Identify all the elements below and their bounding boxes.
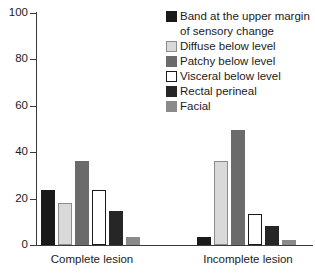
bar	[197, 237, 211, 245]
legend-swatch-icon	[166, 86, 177, 97]
legend-swatch-icon	[166, 101, 177, 112]
bar	[126, 237, 140, 245]
legend-label: Patchy below level	[180, 54, 275, 69]
legend-label: Visceral below level	[180, 69, 281, 84]
legend-item: Rectal perineal	[166, 84, 315, 99]
y-tick-0	[30, 245, 36, 246]
bar-group-0	[41, 13, 143, 245]
bar	[58, 203, 72, 245]
legend-item: Band at the upper margin	[166, 9, 315, 24]
bar	[109, 211, 123, 245]
bar	[282, 240, 296, 245]
bar	[265, 226, 279, 245]
legend-label: Diffuse below level	[180, 39, 276, 54]
legend-label: Facial	[180, 99, 211, 114]
legend-swatch-icon	[166, 56, 177, 67]
legend-label: Band at the upper margin	[180, 9, 310, 24]
bar	[214, 161, 228, 245]
bar	[41, 190, 55, 245]
y-tick-label-wrap-0: 0	[0, 239, 28, 251]
y-tick-label: 100	[0, 7, 28, 19]
legend-label: Rectal perineal	[180, 84, 257, 99]
y-tick-label-wrap-40: 40	[0, 146, 28, 158]
legend-swatch-icon	[166, 71, 177, 82]
y-tick-label-wrap-80: 80	[0, 53, 28, 65]
bar	[75, 161, 89, 245]
y-tick-label: 40	[0, 146, 28, 158]
x-axis-label-0: Complete lesion	[32, 253, 152, 266]
legend-swatch-icon	[166, 11, 177, 22]
legend-item: Diffuse below level	[166, 39, 315, 54]
bar	[231, 130, 245, 245]
y-tick-label-wrap-60: 60	[0, 100, 28, 112]
bar	[248, 214, 262, 245]
bar	[92, 190, 106, 245]
y-tick-label: 0	[0, 239, 28, 251]
x-axis-line	[36, 245, 313, 246]
bar-chart: 020406080100 Complete lesionIncomplete l…	[0, 0, 315, 273]
legend-item: Facial	[166, 99, 315, 114]
y-tick-label: 60	[0, 100, 28, 112]
legend-item: Patchy below level	[166, 54, 315, 69]
legend-item-continuation: of sensory change	[166, 24, 315, 39]
chart-legend: Band at the upper marginof sensory chang…	[166, 9, 315, 114]
y-tick-label-wrap-20: 20	[0, 193, 28, 205]
y-tick-label-wrap-100: 100	[0, 7, 28, 19]
legend-item: Visceral below level	[166, 69, 315, 84]
y-tick-label: 20	[0, 193, 28, 205]
legend-swatch-icon	[166, 41, 177, 52]
y-tick-label: 80	[0, 53, 28, 65]
legend-label-continuation: of sensory change	[180, 24, 274, 39]
x-axis-label-1: Incomplete lesion	[188, 253, 308, 266]
